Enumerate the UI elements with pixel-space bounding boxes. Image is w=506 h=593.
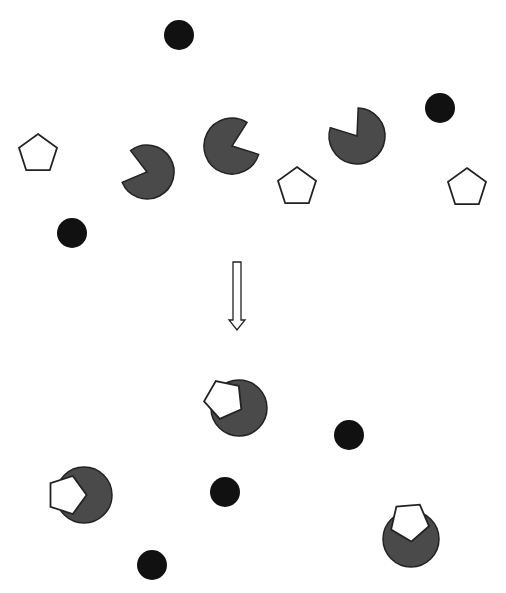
pacman-pentagon-assembly xyxy=(51,467,113,523)
down-arrow-icon xyxy=(229,262,245,330)
pacman-pentagon-assembly xyxy=(204,380,267,436)
black-dot xyxy=(57,218,87,248)
pentagon-shape xyxy=(19,134,57,170)
pentagon-shape xyxy=(448,168,486,204)
pacman-shape xyxy=(204,118,259,174)
after-panel xyxy=(51,380,440,580)
before-panel xyxy=(19,20,486,248)
black-dot xyxy=(334,420,364,450)
pacman-pentagon-assembly xyxy=(383,505,439,567)
black-dot xyxy=(425,93,455,123)
diagram-canvas xyxy=(0,0,506,593)
black-dot xyxy=(137,550,167,580)
pacman-shape xyxy=(329,108,385,164)
black-dot xyxy=(164,20,194,50)
pacman-shape xyxy=(122,145,174,199)
black-dot xyxy=(210,477,240,507)
pentagon-shape xyxy=(278,167,316,203)
arrow-outline xyxy=(229,262,245,330)
